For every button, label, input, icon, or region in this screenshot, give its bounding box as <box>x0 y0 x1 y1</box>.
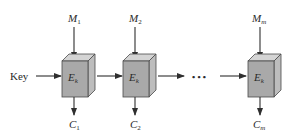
ellipsis: • • • <box>192 72 206 82</box>
input-label-1: M1 <box>67 12 81 26</box>
input-label-2: M2 <box>128 12 142 26</box>
cipher-block-2: M2 Ek C2 <box>123 12 156 132</box>
cipher-block-1: M1 Ek C1 <box>62 12 95 132</box>
output-label-1: C1 <box>69 118 80 132</box>
output-label-2: C2 <box>130 118 141 132</box>
ecb-encryption-diagram: Key M1 Ek C1 M2 Ek C2 <box>0 0 291 134</box>
output-label-m: Cm <box>253 118 265 132</box>
input-label-m: Mm <box>251 12 266 26</box>
cipher-block-m: Mm Ek Cm <box>248 12 281 132</box>
key-label: Key <box>10 70 29 82</box>
